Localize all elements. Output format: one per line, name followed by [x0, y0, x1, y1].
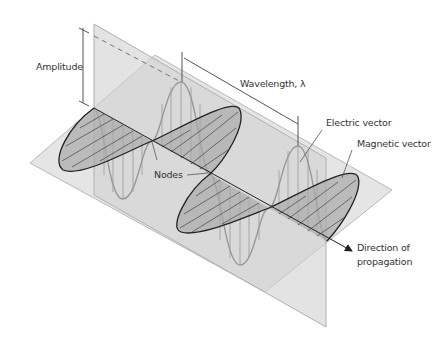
- amplitude-label: Amplitude: [36, 61, 83, 73]
- em-wave-diagram: Amplitude Wavelength, λ Electric vector …: [0, 0, 443, 347]
- magnetic-vector-label: Magnetic vector: [357, 138, 431, 150]
- electric-vector-label: Electric vector: [326, 117, 391, 129]
- wavelength-label: Wavelength, λ: [240, 78, 305, 90]
- diagram-canvas: [0, 0, 443, 347]
- nodes-label: Nodes: [154, 169, 183, 181]
- direction-label-line2: propagation: [357, 256, 412, 268]
- direction-label-line1: Direction of: [357, 242, 410, 254]
